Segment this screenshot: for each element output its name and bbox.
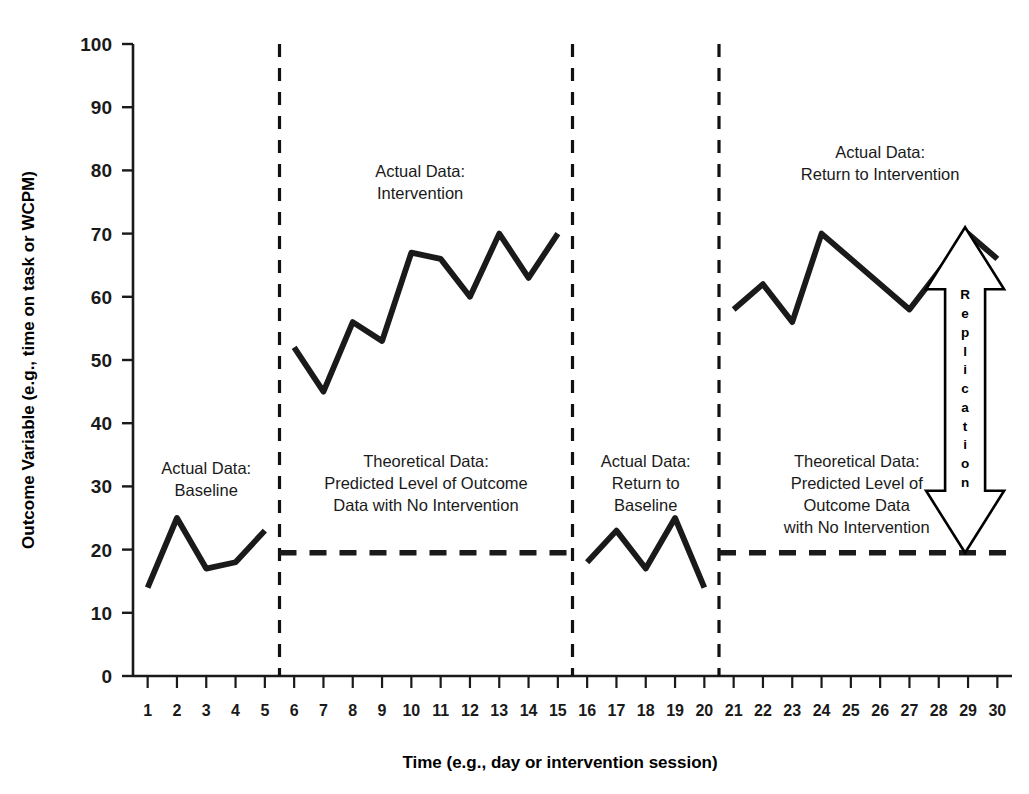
x-tick-label: 14 [520, 702, 538, 719]
x-tick-label: 10 [402, 702, 420, 719]
x-tick-label: 29 [959, 702, 977, 719]
annotation-line: Baseline [614, 496, 677, 514]
y-tick-label: 10 [91, 603, 112, 624]
y-tick-label: 80 [91, 160, 112, 181]
y-tick-label: 70 [91, 224, 112, 245]
annotation-line: Predicted Level of [791, 474, 923, 492]
x-tick-label: 5 [260, 702, 269, 719]
annotation-line: Baseline [175, 481, 238, 499]
x-tick-label: 11 [432, 702, 449, 719]
x-tick-label: 27 [901, 702, 919, 719]
annotation-line: Data with No Intervention [333, 496, 518, 514]
annotation-line: Actual Data: [375, 162, 465, 180]
x-tick-label: 7 [319, 702, 328, 719]
chart-figure: 0102030405060708090100 12345678910111213… [0, 0, 1029, 794]
x-tick-label: 18 [637, 702, 655, 719]
replication-letter: e [961, 306, 969, 321]
annotation-line: with No Intervention [783, 518, 930, 536]
annotation-actual-data-return-to-baseline: Actual Data:Return toBaseline [601, 452, 691, 514]
y-tick-label: 90 [91, 97, 112, 118]
x-tick-label: 12 [461, 702, 479, 719]
x-tick-label: 2 [172, 702, 181, 719]
replication-letter: l [963, 344, 967, 359]
x-tick-label: 1 [143, 702, 152, 719]
x-tick-label: 24 [813, 702, 831, 719]
x-tick-label: 23 [783, 702, 801, 719]
x-tick-label: 19 [666, 702, 684, 719]
x-axis-title: Time (e.g., day or intervention session) [402, 753, 717, 772]
x-tick-label: 16 [578, 702, 596, 719]
x-tick-label: 20 [695, 702, 713, 719]
x-tick-label: 30 [988, 702, 1006, 719]
x-tick-label: 25 [842, 702, 860, 719]
x-tick-label: 13 [490, 702, 508, 719]
y-tick-label: 40 [91, 413, 112, 434]
single-case-design-chart: 0102030405060708090100 12345678910111213… [0, 0, 1029, 794]
annotation-line: Actual Data: [601, 452, 691, 470]
y-tick-label: 0 [101, 666, 112, 687]
annotation-line: Theoretical Data: [363, 452, 489, 470]
x-tick-label: 21 [725, 702, 743, 719]
x-tick-label: 26 [871, 702, 889, 719]
x-tick-label: 22 [754, 702, 772, 719]
y-tick-label: 20 [91, 540, 112, 561]
annotation-line: Return to [612, 474, 680, 492]
x-tick-label: 4 [231, 702, 240, 719]
x-tick-label: 9 [378, 702, 387, 719]
annotation-line: Actual Data: [835, 143, 925, 161]
annotation-line: Predicted Level of Outcome [324, 474, 528, 492]
replication-letter: R [960, 287, 970, 302]
replication-letter: n [961, 475, 969, 490]
y-tick-label: 50 [91, 350, 112, 371]
annotation-line: Theoretical Data: [794, 452, 920, 470]
x-tick-label: 17 [608, 702, 626, 719]
replication-letter: c [961, 381, 969, 396]
annotation-line: Actual Data: [161, 459, 251, 477]
replication-letter: a [961, 400, 969, 415]
x-tick-label: 28 [930, 702, 948, 719]
x-tick-label: 8 [348, 702, 357, 719]
annotation-line: Outcome Data [804, 496, 911, 514]
x-tick-label: 15 [549, 702, 567, 719]
x-tick-label: 3 [202, 702, 211, 719]
replication-letter: o [961, 456, 969, 471]
replication-letter: i [963, 362, 967, 377]
x-tick-label: 6 [290, 702, 299, 719]
y-tick-label: 60 [91, 287, 112, 308]
annotation-line: Return to Intervention [801, 165, 960, 183]
annotation-line: Intervention [377, 184, 463, 202]
replication-letter: i [963, 437, 967, 452]
replication-arrow-label: Replication [960, 287, 970, 489]
replication-letter: t [963, 419, 968, 434]
y-tick-label: 30 [91, 476, 112, 497]
replication-letter: p [961, 325, 969, 340]
y-tick-label: 100 [80, 34, 112, 55]
y-axis-title: Outcome Variable (e.g., time on task or … [19, 171, 38, 549]
